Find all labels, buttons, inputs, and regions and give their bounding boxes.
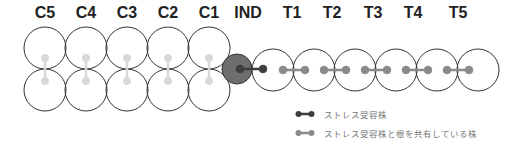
dark-pair-icon (295, 109, 315, 119)
legend-stress-receiving: ストレス受容株 (295, 108, 387, 120)
legend-stress-receiving-text: ストレス受容株 (324, 108, 387, 120)
gray-pair-icon (295, 128, 315, 138)
legend-shared-root: ストレス受容株と根を共有している株 (295, 127, 477, 139)
plant-arrangement-diagram (0, 0, 520, 148)
legend-shared-root-text: ストレス受容株と根を共有している株 (324, 127, 477, 139)
